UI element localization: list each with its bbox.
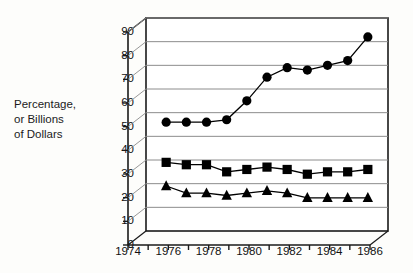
data-point-square [343, 167, 352, 176]
data-point-square [182, 160, 191, 169]
data-point-square [222, 167, 231, 176]
data-point-circle [242, 96, 251, 105]
data-point-circle [343, 56, 352, 65]
data-point-square [162, 158, 171, 167]
data-point-circle [222, 115, 231, 124]
data-point-square [363, 165, 372, 174]
data-point-circle [202, 118, 211, 127]
data-point-square [323, 167, 332, 176]
data-point-square [202, 160, 211, 169]
data-point-circle [363, 32, 372, 41]
depth-edge-gridline [128, 136, 146, 150]
depth-edge-gridline [128, 89, 146, 103]
plot-frame [146, 18, 388, 231]
depth-edge-gridline [128, 113, 146, 127]
depth-edge-gridline [128, 207, 146, 221]
depth-edge-gridline [128, 160, 146, 174]
data-point-square [262, 163, 271, 172]
plot-area [0, 0, 413, 273]
depth-edge-gridline [128, 42, 146, 56]
data-point-circle [323, 61, 332, 70]
data-point-square [303, 170, 312, 179]
data-point-square [283, 165, 292, 174]
depth-edge-bottom-right [370, 231, 388, 245]
data-point-square [242, 165, 251, 174]
data-point-circle [283, 63, 292, 72]
data-point-circle [182, 118, 191, 127]
data-point-circle [162, 118, 171, 127]
data-point-circle [303, 65, 312, 74]
depth-edge-gridline [128, 65, 146, 79]
depth-edge-bottom-left [128, 231, 146, 245]
chart-container: Percentage, or Billions of Dollars 01020… [0, 0, 413, 273]
depth-edge-gridline [128, 18, 146, 32]
data-point-circle [262, 73, 271, 82]
depth-edge-gridline [128, 184, 146, 198]
